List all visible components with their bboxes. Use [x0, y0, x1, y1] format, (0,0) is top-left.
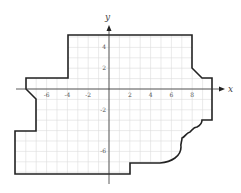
x-tick-label: -2	[85, 91, 91, 98]
x-tick-label: -4	[64, 91, 70, 98]
x-tick-label: 6	[169, 91, 173, 98]
y-tick-label: 4	[102, 43, 106, 50]
x-tick-label: 8	[190, 91, 194, 98]
y-tick-label: -2	[100, 106, 106, 113]
x-tick-label: 4	[149, 91, 153, 98]
y-tick-label: 2	[102, 64, 106, 71]
coordinate-plane: x y -6-4-22468 42-2-6	[0, 0, 241, 193]
x-tick-label: -6	[44, 91, 50, 98]
grid	[5, 16, 234, 193]
x-tick-labels: -6-4-22468	[44, 91, 195, 98]
x-axis-arrow-icon	[219, 87, 225, 92]
y-axis-arrow-icon	[107, 25, 112, 31]
y-axis-label: y	[104, 12, 111, 22]
shape-outline	[15, 35, 212, 174]
x-tick-label: 2	[128, 91, 132, 98]
y-tick-labels: 42-2-6	[100, 43, 106, 154]
y-tick-label: -6	[100, 147, 106, 154]
x-axis-label: x	[228, 84, 233, 94]
